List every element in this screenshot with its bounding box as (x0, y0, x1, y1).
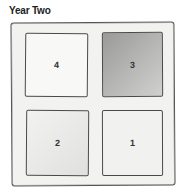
quadrant-label: 1 (103, 138, 162, 148)
diagram-title: Year Two (9, 5, 51, 16)
quadrant-1: 1 (102, 110, 163, 176)
quadrant-4: 4 (25, 33, 89, 98)
quadrant-label: 4 (26, 60, 87, 71)
quadrant-label: 2 (27, 138, 88, 148)
quadrant-3: 3 (102, 32, 163, 97)
quadrant-2: 2 (26, 110, 89, 176)
quadrant-label: 3 (103, 59, 162, 69)
